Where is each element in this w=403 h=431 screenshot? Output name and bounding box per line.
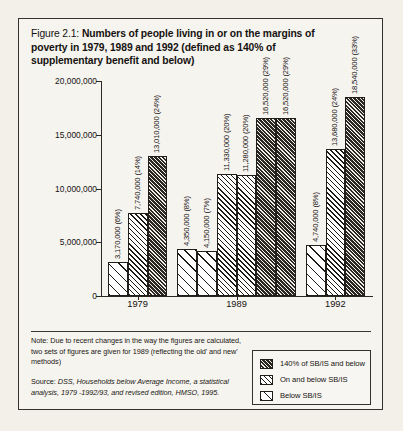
source-lead: Source: xyxy=(31,377,56,386)
bar-value-label: 16,520,000 (29%) xyxy=(262,57,270,115)
page-background: Figure 2.1: Numbers of people living in … xyxy=(0,0,403,431)
bar: 4,150,000 (7%) xyxy=(197,251,217,296)
legend-label: Below SB/IS xyxy=(280,391,322,400)
bar: 13,010,000 (24%) xyxy=(148,156,168,296)
figure-frame: Figure 2.1: Numbers of people living in … xyxy=(18,18,383,410)
y-axis-tick-label: 20,000,000 xyxy=(35,76,97,86)
y-axis-tick xyxy=(96,135,101,136)
chart-legend: 140% of SB/IS and belowOn and below SB/I… xyxy=(252,350,371,405)
bar-value-label: 4,350,000 (8%) xyxy=(183,196,191,246)
y-axis-tick xyxy=(96,296,101,297)
bar-value-label: 7,740,000 (14%) xyxy=(134,156,142,210)
x-axis-group-tick xyxy=(237,296,238,300)
x-axis-group-label: 1979 xyxy=(127,299,148,309)
y-axis-tick-label: 0 xyxy=(35,291,97,301)
source-text: DSS, Households below Average Income, a … xyxy=(31,377,229,397)
bar-value-label: 4,740,000 (8%) xyxy=(312,192,320,242)
legend-swatch-icon xyxy=(260,375,273,385)
bar: 7,740,000 (14%) xyxy=(128,213,148,296)
bar-groups: 3,170,000 (6%)7,740,000 (14%)13,010,000 … xyxy=(102,81,373,296)
bar: 13,680,000 (24%) xyxy=(326,149,346,296)
bar: 11,280,000 (20%) xyxy=(237,175,257,296)
y-axis-tick-label: 5,000,000 xyxy=(35,237,97,247)
y-axis-tick-label: 10,000,000 xyxy=(35,184,97,194)
chart-source: Source: DSS, Households below Average In… xyxy=(31,377,244,398)
bar: 16,520,000 (29%) xyxy=(276,118,296,296)
y-axis-tick xyxy=(96,189,101,190)
y-axis-tick xyxy=(96,242,101,243)
bar: 3,170,000 (6%) xyxy=(108,262,128,296)
divider xyxy=(31,331,371,332)
bar: 16,520,000 (29%) xyxy=(256,118,276,296)
bar: 18,540,000 (33%) xyxy=(345,97,365,296)
bar-value-label: 16,520,000 (29%) xyxy=(282,57,290,115)
bar-value-label: 13,010,000 (24%) xyxy=(153,95,161,153)
chart-plot-area: 05,000,00010,000,00015,000,00020,000,000… xyxy=(31,81,374,324)
bar-value-label: 4,150,000 (7%) xyxy=(203,199,211,249)
bar-value-label: 11,280,000 (20%) xyxy=(242,114,250,171)
legend-item: Below SB/IS xyxy=(260,388,370,403)
x-axis-group-label: 1989 xyxy=(226,299,247,309)
bar: 4,350,000 (8%) xyxy=(177,249,197,296)
y-axis-tick-label: 15,000,000 xyxy=(35,130,97,140)
legend-swatch-icon xyxy=(260,391,273,401)
x-axis-group-tick xyxy=(335,296,336,300)
bar-value-label: 11,330,000 (20%) xyxy=(223,114,231,171)
legend-label: 140% of SB/IS and below xyxy=(280,359,365,368)
legend-swatch-icon xyxy=(260,359,273,369)
legend-item: 140% of SB/IS and below xyxy=(260,356,370,371)
bar: 11,330,000 (20%) xyxy=(217,174,237,296)
legend-item: On and below SB/IS xyxy=(260,372,370,387)
bar-value-label: 18,540,000 (33%) xyxy=(351,36,359,94)
figure-number: Figure 2.1: xyxy=(31,28,79,39)
y-axis-labels: 05,000,00010,000,00015,000,00020,000,000 xyxy=(31,81,97,296)
bar-value-label: 13,680,000 (24%) xyxy=(331,88,339,146)
x-axis-group-label: 1992 xyxy=(325,299,346,309)
chart-note: Note: Due to recent changes in the way t… xyxy=(31,336,244,368)
x-axis-group-tick xyxy=(138,296,139,300)
y-axis-tick xyxy=(96,81,101,82)
bar: 4,740,000 (8%) xyxy=(306,245,326,296)
bar-value-label: 3,170,000 (6%) xyxy=(114,209,122,259)
legend-label: On and below SB/IS xyxy=(280,375,348,384)
